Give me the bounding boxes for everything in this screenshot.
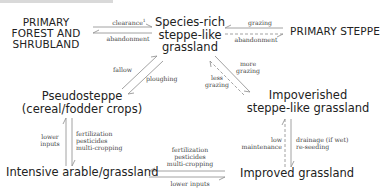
label-ploughing: ploughing: [146, 75, 178, 82]
arrow-intensification-bottom: [149, 168, 225, 171]
node-primary-steppe: PRIMARY STEPPE: [288, 26, 382, 37]
label-low-maintenance: low maintenance: [238, 136, 282, 150]
label-lower-inputs-bottom: lower inputs: [160, 180, 220, 187]
label-grazing-steppe: grazing: [240, 19, 280, 26]
label-clearance: clearance1: [106, 17, 152, 26]
node-pseudosteppe: Pseudosteppe (cereal/fodder crops): [14, 90, 150, 115]
node-species-rich-grassland: Species-rich steppe-like grassland: [148, 16, 232, 54]
label-clearance-text: clearance: [112, 19, 143, 26]
arrow-drainage: [291, 119, 294, 167]
label-lower-inputs-left: lower inputs: [36, 133, 64, 147]
label-drainage-reseeding: drainage (if wet) re-seeding: [296, 136, 348, 150]
label-abandonment-forest: abandonment: [100, 35, 156, 42]
label-intensification-left: fertilization pesticides multi-cropping: [76, 130, 122, 151]
label-fallow: fallow: [113, 66, 132, 73]
arrow-low-maintenance: [282, 119, 285, 167]
node-primary-forest: PRIMARY FOREST AND SHRUBLAND: [8, 17, 84, 50]
label-abandonment-steppe: abandonment: [226, 36, 286, 43]
node-improved-grassland: Improved grassland: [240, 167, 352, 180]
label-more-grazing: more grazing: [228, 60, 268, 74]
footnote-marker: 1: [143, 18, 146, 23]
arrow-intensification-left: [72, 118, 75, 166]
arrow-abandonment-forest: [93, 30, 152, 33]
node-intensive-arable: Intensive arable/grassland: [6, 166, 146, 179]
node-impoverished-grassland: Impoverished steppe-like grassland: [238, 89, 378, 114]
label-less-grazing: less grazing: [202, 74, 232, 88]
label-intensification-bottom: fertilization pesticides multi-cropping: [160, 146, 220, 167]
